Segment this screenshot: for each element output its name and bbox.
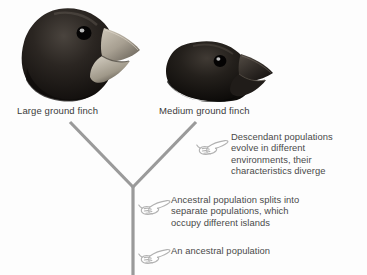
speciation-diagram-figure: Large ground finch — [0, 0, 367, 275]
branch-right — [133, 122, 196, 187]
pointing-hand-icon — [138, 242, 172, 268]
pointing-hand-icon — [138, 193, 172, 219]
medium-ground-finch-label: Medium ground finch — [159, 105, 250, 116]
medium-ground-finch-photo — [163, 38, 277, 102]
branch-left — [70, 122, 133, 187]
large-ground-finch-label: Large ground finch — [17, 105, 98, 116]
annotation-ancestral-population-splits: Ancestral population splits into separat… — [171, 194, 351, 228]
large-ground-finch-photo — [18, 6, 144, 102]
annotation-an-ancestral-population: An ancestral population — [171, 245, 351, 256]
annotation-descendant-populations: Descendant populations evolve in differe… — [231, 131, 367, 177]
pointing-hand-icon — [196, 133, 230, 159]
